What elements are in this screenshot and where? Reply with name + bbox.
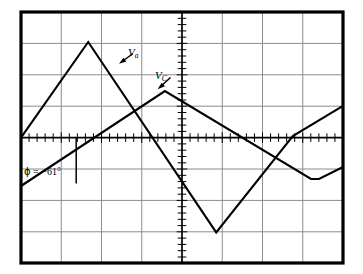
phi-symbol: ϕ: [24, 166, 31, 177]
phase-annotation: ϕ = −61°: [24, 167, 61, 177]
oscilloscope-waveform-figure: Va VC ϕ = −61°: [0, 0, 363, 274]
trace-label-vc-subscript: C: [162, 74, 167, 83]
trace-label-va: Va: [128, 47, 138, 60]
trace-label-vc: VC: [155, 70, 167, 83]
phase-value: = −61°: [31, 166, 61, 177]
trace-label-va-symbol: V: [128, 46, 135, 58]
plot-canvas: [0, 0, 363, 274]
trace-label-vc-symbol: V: [155, 69, 162, 81]
trace-label-va-subscript: a: [135, 51, 139, 60]
